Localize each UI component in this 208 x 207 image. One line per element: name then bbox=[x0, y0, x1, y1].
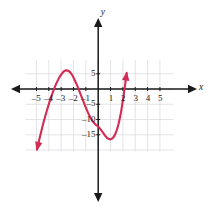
x-axis-arrow-right bbox=[188, 85, 197, 93]
chart-figure: –5–4–3–2–1123455–5–10–15xy bbox=[0, 0, 208, 207]
x-tick-label: –5 bbox=[32, 94, 41, 103]
x-tick-label: 1 bbox=[109, 94, 114, 103]
x-tick-label: –2 bbox=[69, 94, 78, 103]
x-tick-label: 4 bbox=[146, 94, 151, 103]
x-axis-arrow-left bbox=[11, 85, 20, 93]
y-tick-label: –5 bbox=[87, 99, 96, 108]
y-axis-name: y bbox=[101, 8, 105, 17]
x-tick-label: 2 bbox=[121, 94, 126, 103]
x-axis-name: x bbox=[199, 83, 203, 92]
x-tick-label: 3 bbox=[133, 94, 138, 103]
y-axis-arrow-down bbox=[94, 193, 102, 202]
coordinate-plane bbox=[0, 0, 208, 207]
axes bbox=[11, 18, 197, 202]
x-tick-label: –3 bbox=[56, 94, 65, 103]
curve-series bbox=[35, 70, 129, 151]
y-tick-label: –10 bbox=[82, 115, 96, 124]
x-tick-label: –4 bbox=[44, 94, 53, 103]
y-tick-label: 5 bbox=[91, 69, 96, 78]
y-tick-label: –15 bbox=[82, 130, 96, 139]
x-tick-label: 5 bbox=[158, 94, 163, 103]
y-axis-arrow-up bbox=[94, 18, 102, 27]
